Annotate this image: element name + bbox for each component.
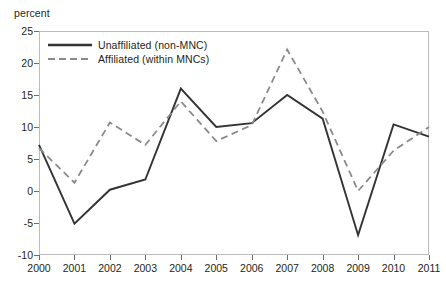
y-tick-label: -10 [18,249,33,261]
x-tick-mark [39,255,40,260]
x-tick-label: 2003 [134,262,157,274]
x-tick-label: 2000 [27,262,50,274]
x-tick-label: 2008 [311,262,334,274]
y-axis-tick-labels: 2520151050-5-10 [0,31,33,255]
y-tick-label: 15 [21,89,33,101]
x-tick-mark [323,255,324,260]
x-tick-mark [287,255,288,260]
x-tick-label: 2007 [275,262,298,274]
x-tick-label: 2005 [205,262,228,274]
x-tick-label: 2001 [63,262,86,274]
x-axis-tick-marks [39,255,429,260]
x-tick-label: 2009 [346,262,369,274]
x-tick-mark [252,255,253,260]
x-tick-mark [394,255,395,260]
x-axis-tick-labels: 2000200120022003200420052006200720082009… [39,262,429,280]
series-line-unaffiliated [39,89,429,236]
x-tick-label: 2002 [98,262,121,274]
x-tick-label: 2004 [169,262,192,274]
legend-label-affiliated: Affiliated (within MNCs) [98,53,209,65]
y-tick-label: 10 [21,121,33,133]
y-tick-label: 5 [27,153,33,165]
x-tick-mark [429,255,430,260]
x-tick-mark [145,255,146,260]
series-line-affiliated [39,50,429,191]
x-tick-label: 2010 [382,262,405,274]
x-tick-label: 2011 [418,262,441,274]
legend-item-unaffiliated: Unaffiliated (non-MNC) [48,38,258,52]
x-tick-mark [74,255,75,260]
legend-solid-line-icon [48,40,92,50]
x-tick-mark [181,255,182,260]
y-tick-label: 0 [27,185,33,197]
x-tick-mark [358,255,359,260]
y-tick-label: 20 [21,57,33,69]
legend-label-unaffiliated: Unaffiliated (non-MNC) [98,39,207,51]
chart-legend: Unaffiliated (non-MNC) Affiliated (withi… [48,38,258,66]
x-tick-mark [216,255,217,260]
line-chart: percent 2520151050-5-10 2000200120022003… [0,0,446,289]
y-tick-label: 25 [21,25,33,37]
y-tick-label: -5 [24,217,33,229]
x-tick-label: 2006 [240,262,263,274]
legend-item-affiliated: Affiliated (within MNCs) [48,52,258,66]
y-axis-title: percent [14,7,50,19]
legend-dashed-line-icon [48,54,92,64]
x-tick-mark [110,255,111,260]
